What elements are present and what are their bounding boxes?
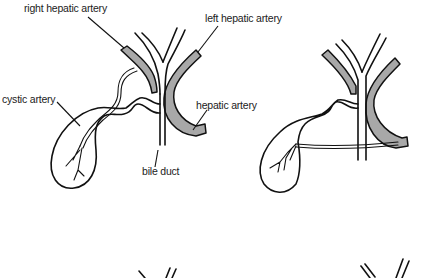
label-right-hepatic-artery: right hepatic artery [24,2,108,14]
right-hepatic-artery [121,46,157,93]
duct-stub-4d [402,261,409,278]
figure-variant-4-partial [361,259,409,278]
common-hepatic-artery [164,50,206,136]
label-left-hepatic-artery: left hepatic artery [205,12,283,24]
leader-cystic [57,102,80,126]
cystic-artery-branches [66,146,84,180]
leader-left-hepatic [198,26,218,52]
duct-stub-4b [365,264,375,277]
duct-stub-3b [166,268,170,278]
label-bile-duct: bile duct [142,165,180,177]
label-cystic-artery: cystic artery [2,93,56,105]
duct-stub-3a [139,271,145,278]
right-hepatic-artery-2 [322,50,356,94]
left-hepatic-duct [163,28,177,62]
duct-stub-4c [396,259,403,278]
cystic-artery-2-branches [270,144,296,172]
right-hepatic-duct-2-inner [342,40,362,72]
duct-stub-3c [172,269,176,278]
figure-variant-3-partial [139,268,176,278]
leader-right-hepatic [88,17,124,48]
biliary-artery-diagram: right hepatic artery left hepatic artery… [0,0,431,278]
common-bile-duct [160,94,165,145]
common-hepatic-artery-2 [366,58,408,148]
label-hepatic-artery: hepatic artery [196,99,258,111]
figure-variant-2 [260,34,408,192]
figure-variant-1: right hepatic artery left hepatic artery… [2,2,283,188]
